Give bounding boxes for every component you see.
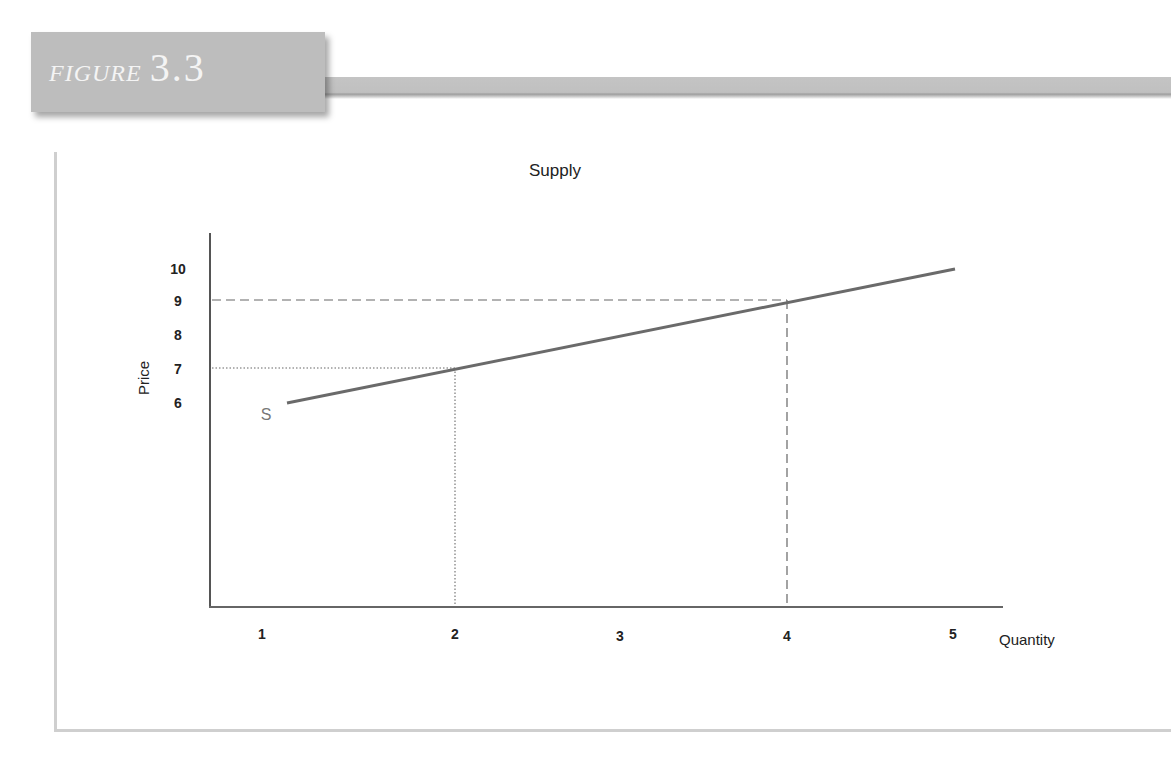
y-tick-8: 8 bbox=[174, 327, 182, 343]
y-tick-6: 6 bbox=[174, 395, 182, 411]
x-tick-2: 2 bbox=[451, 626, 459, 642]
y-axis-label: Price bbox=[135, 361, 152, 395]
x-tick-labels: 1 2 3 4 5 bbox=[258, 626, 957, 644]
supply-chart: Supply 10 9 8 7 6 Price 1 2 3 4 5 Quanti… bbox=[0, 0, 1171, 777]
y-tick-9: 9 bbox=[174, 293, 182, 309]
x-tick-5: 5 bbox=[949, 626, 957, 642]
chart-title: Supply bbox=[529, 161, 581, 180]
x-tick-4: 4 bbox=[783, 628, 791, 644]
y-tick-10: 10 bbox=[170, 261, 186, 277]
y-tick-labels: 10 9 8 7 6 bbox=[170, 261, 186, 411]
supply-curve-label: S bbox=[261, 406, 272, 423]
x-tick-3: 3 bbox=[616, 628, 624, 644]
supply-curve bbox=[287, 269, 955, 403]
x-axis-label: Quantity bbox=[999, 631, 1055, 648]
y-tick-7: 7 bbox=[174, 361, 182, 377]
x-tick-1: 1 bbox=[258, 626, 266, 642]
